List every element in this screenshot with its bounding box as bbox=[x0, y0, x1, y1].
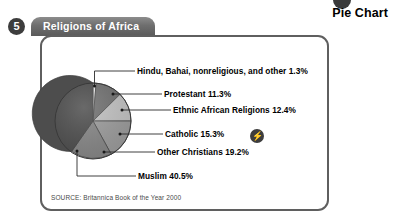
label-catholic: Catholic 15.3% bbox=[165, 129, 224, 139]
source-note: SOURCE: Britannica Book of the Year 2000 bbox=[51, 194, 181, 201]
pie-chart-caption: Pie Chart bbox=[332, 6, 388, 20]
item-number-badge: 5 bbox=[8, 18, 25, 35]
label-ethnic-african-religions: Ethnic African Religions 12.4% bbox=[173, 105, 296, 115]
label-protestant: Protestant 11.3% bbox=[164, 89, 231, 99]
label-hindu-bahai-other: Hindu, Bahai, nonreligious, and other 1.… bbox=[137, 66, 308, 76]
chart-panel bbox=[40, 35, 329, 211]
panel-tab-title: Religions of Africa bbox=[31, 17, 155, 36]
flash-icon: ⚡ bbox=[250, 129, 264, 143]
label-muslim: Muslim 40.5% bbox=[138, 171, 193, 181]
label-other-christians: Other Christians 19.2% bbox=[157, 147, 249, 157]
